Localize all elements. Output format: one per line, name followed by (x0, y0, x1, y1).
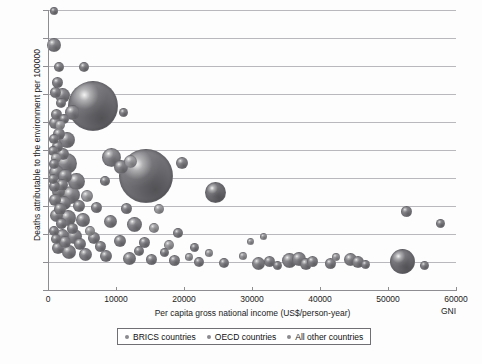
x-tick-label: 30000 (222, 294, 282, 304)
data-bubble (124, 155, 137, 168)
data-bubble (361, 260, 370, 269)
bubble-chart-figure: Deaths attributable to the environment p… (0, 0, 482, 364)
legend-label: OECD countries (215, 332, 276, 342)
data-bubble (123, 252, 136, 265)
data-bubble (273, 261, 282, 270)
x-tick-label: 20000 (154, 294, 214, 304)
gridline (48, 206, 456, 207)
data-bubble (420, 261, 429, 270)
data-bubble (79, 62, 89, 72)
data-bubble (54, 62, 64, 72)
x-tick-mark (456, 287, 457, 291)
data-bubble (119, 108, 128, 117)
x-tick-label: 40000 (290, 294, 350, 304)
legend-entry: BRICS countries (125, 332, 196, 342)
y-tick-mark (43, 38, 48, 39)
legend-marker-icon (207, 335, 211, 339)
data-bubble (173, 228, 183, 238)
x-tick-mark (48, 287, 49, 291)
data-bubble (100, 176, 110, 186)
legend-entry: All other countries (287, 332, 363, 342)
gridline (48, 234, 456, 235)
x-tick-label: 60000 (426, 294, 482, 304)
x-tick-mark (184, 287, 185, 291)
data-bubble (185, 253, 193, 261)
data-bubble (146, 254, 157, 265)
data-bubble (49, 134, 59, 144)
y-axis-line (48, 10, 49, 291)
y-tick-mark (43, 262, 48, 263)
data-bubble (104, 215, 117, 228)
y-tick-mark (43, 150, 48, 151)
data-bubble (252, 257, 265, 270)
data-bubble (56, 98, 66, 108)
chart-legend: BRICS countriesOECD countriesAll other c… (117, 328, 371, 345)
y-tick-mark (43, 178, 48, 179)
data-bubble (332, 253, 340, 261)
data-bubble (190, 243, 199, 252)
y-tick-mark (43, 66, 48, 67)
data-bubble (260, 233, 267, 240)
data-bubble (85, 226, 95, 236)
data-bubble (390, 249, 415, 274)
x-tick-mark (116, 287, 117, 291)
x-tick-mark (252, 287, 253, 291)
data-bubble (205, 182, 226, 203)
data-bubble (121, 203, 132, 214)
x-tick-mark (320, 287, 321, 291)
data-bubble (160, 248, 169, 257)
x-tick-label: 10000 (86, 294, 146, 304)
data-bubble (100, 250, 112, 262)
data-bubble (59, 236, 71, 248)
data-bubble (149, 223, 159, 233)
data-bubble (239, 252, 247, 260)
data-bubble (95, 241, 106, 252)
gridline (48, 38, 456, 39)
data-bubble (50, 7, 58, 15)
gridline (48, 66, 456, 67)
data-bubble (436, 219, 445, 228)
data-bubble (176, 157, 188, 169)
data-bubble (91, 202, 102, 213)
data-bubble (55, 120, 65, 130)
y-tick-mark (43, 122, 48, 123)
data-bubble (81, 190, 93, 202)
data-bubble (154, 204, 164, 214)
y-tick-mark (43, 234, 48, 235)
data-bubble (205, 249, 213, 257)
y-axis-title: Deaths attributable to the environment p… (32, 0, 42, 290)
y-tick-mark (43, 206, 48, 207)
x-axis-title: Per capita gross national income (US$/pe… (48, 308, 457, 318)
data-bubble (219, 258, 229, 268)
data-bubble (169, 255, 180, 266)
x-tick-mark (388, 287, 389, 291)
legend-marker-icon (287, 335, 291, 339)
legend-label: All other countries (295, 332, 363, 342)
legend-label: BRICS countries (133, 332, 196, 342)
x-tick-label: 0 (18, 294, 78, 304)
x-axis-note: GNI (441, 306, 456, 316)
legend-marker-icon (125, 335, 129, 339)
data-bubble (134, 246, 144, 256)
legend-entry: OECD countries (207, 332, 276, 342)
x-tick-label: 50000 (358, 294, 418, 304)
data-bubble (194, 257, 204, 267)
plot-area (48, 10, 456, 290)
y-tick-mark (43, 94, 48, 95)
data-bubble (114, 235, 126, 247)
gridline (48, 10, 456, 11)
y-tick-mark (43, 10, 48, 11)
data-bubble (401, 206, 412, 217)
data-bubble (73, 200, 85, 212)
data-bubble (307, 256, 318, 267)
data-bubble (127, 217, 142, 232)
data-bubble (247, 238, 254, 245)
data-bubble (50, 87, 61, 98)
data-bubble (67, 223, 78, 234)
